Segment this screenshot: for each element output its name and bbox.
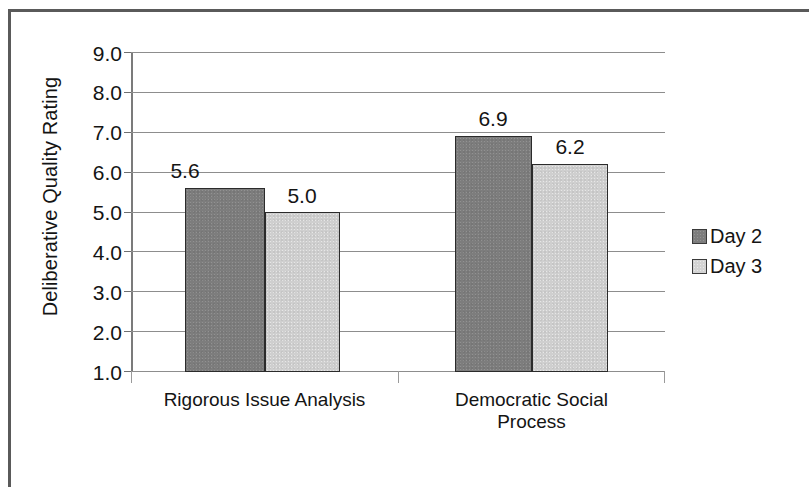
category-tick — [131, 371, 132, 383]
y-tick-label-1: 1.0 — [64, 362, 122, 383]
bar-value-label-day2-group1: 5.6 — [150, 160, 220, 181]
legend-item-day2[interactable]: Day 2 — [692, 221, 762, 251]
legend-swatch-icon-day2 — [692, 229, 707, 244]
y-tick-label-8: 8.0 — [64, 82, 122, 103]
legend-item-day3[interactable]: Day 3 — [692, 251, 762, 281]
y-tick-label-7: 7.0 — [64, 122, 122, 143]
plot-area — [131, 52, 665, 371]
chart-legend: Day 2 Day 3 — [692, 221, 762, 281]
category-tick — [664, 371, 665, 383]
y-tick-label-4: 4.0 — [64, 242, 122, 263]
y-tick-label-5: 5.0 — [64, 202, 122, 223]
y-tick-label-3: 3.0 — [64, 282, 122, 303]
y-tick-label-6: 6.0 — [64, 162, 122, 183]
bar-value-label-day3-group1: 5.0 — [267, 185, 337, 206]
category-label-line-2: Process — [398, 411, 665, 433]
category-axis — [131, 371, 665, 383]
bar-day2-democratic-social-process — [455, 136, 532, 372]
legend-label-day2: Day 2 — [710, 225, 762, 248]
category-label-line-1: Democratic Social — [398, 389, 665, 411]
bar-day3-democratic-social-process — [532, 164, 608, 372]
y-tick-label-9: 9.0 — [64, 43, 122, 64]
gridline — [131, 52, 665, 53]
gridline — [131, 132, 665, 133]
legend-label-day3: Day 3 — [710, 255, 762, 278]
bar-day3-rigorous-issue-analysis — [265, 212, 340, 372]
category-label-rigorous-issue-analysis: Rigorous Issue Analysis — [131, 389, 398, 411]
legend-swatch-icon-day3 — [692, 259, 707, 274]
bar-value-label-day3-group2: 6.2 — [535, 136, 605, 157]
y-axis-title: Deliberative Quality Rating — [39, 27, 62, 367]
gridline — [131, 92, 665, 93]
bar-value-label-day2-group2: 6.9 — [458, 108, 528, 129]
category-label-democratic-social-process: Democratic Social Process — [398, 389, 665, 433]
bar-day2-rigorous-issue-analysis — [185, 188, 265, 372]
category-tick — [398, 371, 399, 383]
y-tick-label-2: 2.0 — [64, 322, 122, 343]
